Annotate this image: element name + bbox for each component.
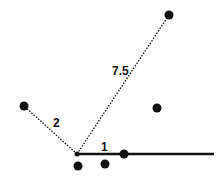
point-on-line (120, 150, 129, 159)
origin-point (75, 152, 80, 157)
point-right-mid (153, 104, 162, 113)
point-left (20, 102, 29, 111)
distance-label-left: 2 (53, 116, 60, 130)
distance-label-line: 1 (101, 140, 108, 154)
distance-label-top: 7.5 (112, 64, 129, 78)
diagram-canvas: 7.5 2 1 (0, 0, 224, 180)
point-below-left (74, 162, 83, 171)
distance-line-top (77, 15, 169, 154)
point-below-mid (101, 160, 110, 169)
distance-line-left (24, 106, 77, 154)
point-top (165, 11, 174, 20)
